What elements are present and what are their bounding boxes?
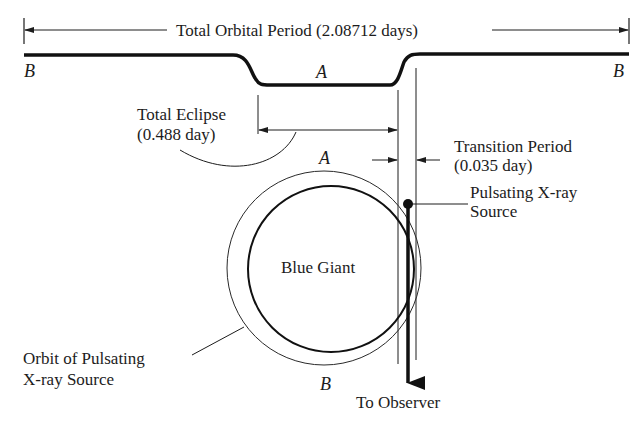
orbit-label-line1: Orbit of Pulsating (23, 349, 145, 368)
orbit-point-a-label: A (318, 148, 331, 168)
light-curve-label-b-left: B (24, 61, 35, 81)
transition-period-label-line1: Transition Period (454, 137, 572, 156)
xray-source-label-line1: Pulsating X-ray (470, 183, 578, 202)
orbital-period-dimension: Total Orbital Period (2.08712 days) (24, 18, 629, 44)
transition-period-label-line2: (0.035 day) (454, 156, 532, 175)
light-curve-label-b-right: B (613, 61, 624, 81)
orbit-label-leader (192, 327, 244, 355)
total-eclipse-dimension: Total Eclipse (0.488 day) (137, 105, 397, 166)
orbital-period-label: Total Orbital Period (2.08712 days) (176, 21, 418, 40)
eclipsing-binary-diagram: Total Orbital Period (2.08712 days) B A … (0, 0, 644, 421)
orbit-label-line2: X-ray Source (23, 370, 114, 389)
diagram-canvas: Total Orbital Period (2.08712 days) B A … (0, 0, 644, 421)
orbit-point-b-label: B (320, 374, 331, 394)
transition-period-dimension: Transition Period (0.035 day) (372, 137, 572, 175)
xray-source-label-line2: Source (470, 202, 517, 221)
observer-label: To Observer (356, 393, 441, 412)
light-curve-label-a: A (315, 62, 328, 82)
total-eclipse-label-line1: Total Eclipse (137, 105, 226, 124)
total-eclipse-label-line2: (0.488 day) (137, 125, 215, 144)
blue-giant-label: Blue Giant (281, 258, 355, 277)
